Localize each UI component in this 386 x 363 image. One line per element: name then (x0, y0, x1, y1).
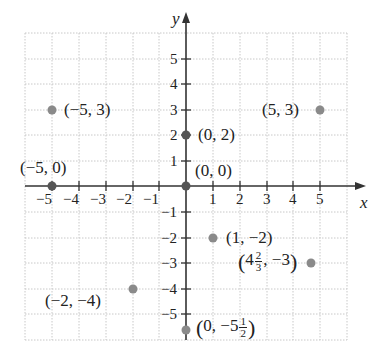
y-tick-label: 3 (170, 103, 178, 118)
point-label: (0, 2) (198, 126, 235, 143)
x-tick-label: 5 (316, 192, 324, 207)
point-label: (−2, −4) (45, 292, 101, 309)
y-tick-label: 5 (170, 52, 178, 67)
point-0-neg5-half (182, 326, 191, 335)
x-axis-arrow-icon (355, 182, 366, 190)
point-label: (1, −2) (226, 229, 272, 246)
y-tick-label: −5 (161, 307, 177, 322)
y-tick-label: −1 (161, 205, 177, 220)
point-0-2 (182, 131, 191, 140)
fraction: 12 (239, 316, 247, 339)
x-tick-label: −5 (36, 192, 52, 207)
point-neg2-neg4 (129, 285, 138, 294)
y-tick-label: 1 (170, 154, 178, 169)
x-tick-label: −3 (90, 192, 106, 207)
point-label-mixed-fraction: (423, −3) (238, 250, 297, 273)
point-0-0 (182, 182, 191, 191)
point-neg5-3 (48, 106, 57, 115)
fraction: 23 (255, 250, 263, 273)
x-tick-label: 2 (236, 192, 244, 207)
y-axis-label: y (172, 10, 180, 27)
point-1-neg2 (209, 234, 218, 243)
x-tick-label: 1 (209, 192, 217, 207)
x-tick-label: −2 (116, 192, 132, 207)
y-tick-label: −3 (161, 256, 177, 271)
point-label: (5, 3) (262, 101, 299, 118)
point-label-mixed-fraction: (0, −512) (196, 316, 255, 339)
point-4-2thirds-neg3 (307, 259, 316, 268)
y-tick-label: −2 (161, 231, 177, 246)
point-5-3 (316, 106, 325, 115)
point-label: (0, 0) (195, 162, 232, 179)
y-tick-label: 2 (170, 128, 178, 143)
x-tick-label: 3 (263, 192, 271, 207)
y-axis-arrow-icon (182, 12, 190, 23)
point-neg5-0 (48, 182, 57, 191)
point-label: (−5, 3) (64, 101, 110, 118)
x-tick-label: −1 (143, 192, 159, 207)
y-tick-label: −4 (161, 282, 177, 297)
y-tick-label: 4 (170, 77, 178, 92)
x-axis-label: x (360, 194, 368, 211)
point-label: (−5, 0) (20, 159, 66, 176)
x-tick-label: −4 (63, 192, 79, 207)
x-tick-label: 4 (289, 192, 297, 207)
